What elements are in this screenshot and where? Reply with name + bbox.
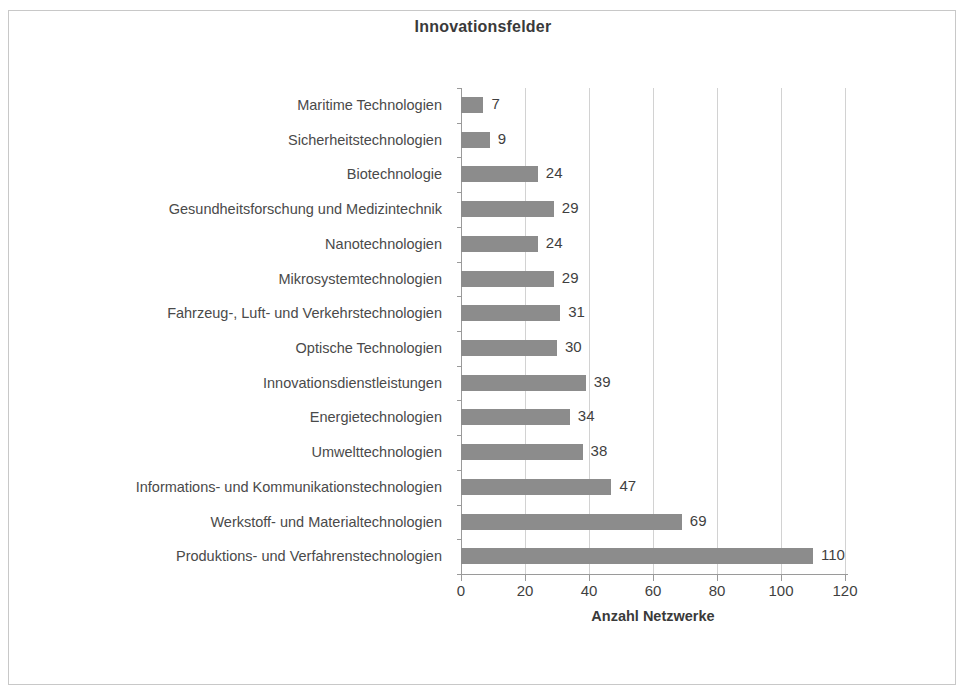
category-label: Mikrosystemtechnologien: [278, 262, 442, 297]
bar-value-label: 34: [578, 407, 595, 424]
bar-value-label: 69: [690, 512, 707, 529]
bar-row: 29: [461, 192, 845, 227]
bar-row: 7: [461, 88, 845, 123]
bar-row: 24: [461, 227, 845, 262]
bar: [461, 514, 682, 530]
bar-row: 110: [461, 539, 845, 574]
category-label: Biotechnologie: [347, 157, 442, 192]
axis-tick: [781, 575, 782, 581]
category-label: Informations- und Kommunikationstechnolo…: [136, 470, 442, 505]
bar-row: 29: [461, 262, 845, 297]
bar: [461, 479, 611, 495]
bar-row: 30: [461, 331, 845, 366]
value-axis-tick-label: 0: [457, 582, 465, 599]
bar-row: 39: [461, 366, 845, 401]
category-label: Maritime Technologien: [297, 88, 442, 123]
category-label: Produktions- und Verfahrenstechnologien: [176, 539, 442, 574]
bar-value-label: 29: [562, 269, 579, 286]
bar-value-label: 38: [591, 442, 608, 459]
category-axis-tick: [457, 400, 462, 401]
value-axis-tick-labels: 020406080100120: [461, 582, 851, 604]
category-axis-tick: [457, 331, 462, 332]
chart-plot-wrapper: Maritime TechnologienSicherheitstechnolo…: [0, 0, 966, 691]
category-label: Nanotechnologien: [325, 227, 442, 262]
category-axis-tick: [457, 123, 462, 124]
category-label: Optische Technologien: [296, 331, 442, 366]
bar-value-label: 24: [546, 234, 563, 251]
bar-value-label: 39: [594, 373, 611, 390]
gridline: [845, 88, 846, 574]
category-label: Energietechnologien: [310, 400, 442, 435]
category-axis-tick: [457, 157, 462, 158]
category-label: Innovationsdienstleistungen: [263, 366, 442, 401]
bar-row: 24: [461, 157, 845, 192]
category-axis-labels: Maritime TechnologienSicherheitstechnolo…: [0, 88, 452, 574]
category-axis-tick: [457, 539, 462, 540]
category-axis-tick: [457, 574, 462, 575]
bar-value-label: 7: [491, 95, 499, 112]
value-axis-tick-label: 40: [581, 582, 598, 599]
bar-row: 38: [461, 435, 845, 470]
bar-value-label: 31: [568, 303, 585, 320]
category-axis-tick: [457, 192, 462, 193]
bar: [461, 201, 554, 217]
bar: [461, 375, 586, 391]
axis-tick: [525, 575, 526, 581]
category-axis-tick: [457, 296, 462, 297]
bar-row: 47: [461, 470, 845, 505]
category-label: Fahrzeug-, Luft- und Verkehrstechnologie…: [167, 296, 442, 331]
bar: [461, 409, 570, 425]
value-axis-tick-label: 80: [709, 582, 726, 599]
bar-row: 9: [461, 123, 845, 158]
bar: [461, 97, 483, 113]
value-axis-tick-label: 120: [832, 582, 857, 599]
category-axis-tick: [457, 88, 462, 89]
bar-value-label: 30: [565, 338, 582, 355]
bar-value-label: 9: [498, 130, 506, 147]
category-label: Werkstoff- und Materialtechnologien: [210, 505, 442, 540]
bar: [461, 444, 583, 460]
axis-tick: [845, 575, 846, 581]
value-axis-tick-label: 100: [768, 582, 793, 599]
plot-area: 792429242931303934384769110: [461, 88, 845, 574]
bar-value-label: 47: [619, 477, 636, 494]
axis-tick: [653, 575, 654, 581]
bar: [461, 340, 557, 356]
category-label: Gesundheitsforschung und Medizintechnik: [169, 192, 442, 227]
category-axis-tick: [457, 366, 462, 367]
value-axis-tick-label: 20: [517, 582, 534, 599]
value-axis-tick-label: 60: [645, 582, 662, 599]
category-axis-tick: [457, 227, 462, 228]
category-axis-tick: [457, 435, 462, 436]
category-axis-tick: [457, 470, 462, 471]
bar-value-label: 29: [562, 199, 579, 216]
bar: [461, 132, 490, 148]
bar: [461, 166, 538, 182]
bar-row: 34: [461, 400, 845, 435]
bar-row: 69: [461, 505, 845, 540]
axis-tick: [461, 575, 462, 581]
bar-value-label: 24: [546, 164, 563, 181]
axis-tick: [589, 575, 590, 581]
bar-row: 31: [461, 296, 845, 331]
bar-value-label: 110: [821, 546, 845, 563]
category-label: Umwelttechnologien: [311, 435, 442, 470]
category-label: Sicherheitstechnologien: [288, 123, 442, 158]
bar: [461, 271, 554, 287]
bar: [461, 305, 560, 321]
axis-tick: [717, 575, 718, 581]
value-axis-title: Anzahl Netzwerke: [461, 608, 845, 624]
category-axis-tick: [457, 505, 462, 506]
category-axis-tick: [457, 262, 462, 263]
bar: [461, 548, 813, 564]
bar: [461, 236, 538, 252]
